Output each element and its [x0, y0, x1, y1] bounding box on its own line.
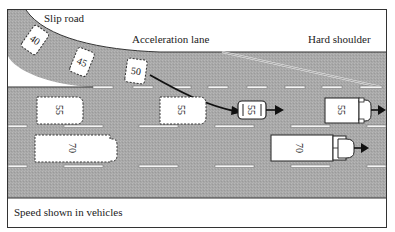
- caption: Speed shown in vehicles: [14, 206, 122, 218]
- label-slip-road: Slip road: [44, 12, 84, 24]
- label-acceleration-lane: Acceleration lane: [132, 33, 209, 45]
- vehicle-slip-car-3: 50: [124, 58, 147, 85]
- vehicle-lane1-car-mid: 55: [160, 97, 206, 124]
- svg-text:70: 70: [67, 143, 78, 153]
- svg-text:55: 55: [176, 105, 187, 115]
- svg-text:50: 50: [130, 65, 141, 77]
- label-hard-shoulder: Hard shoulder: [308, 33, 371, 45]
- svg-text:55: 55: [246, 105, 257, 115]
- svg-text:70: 70: [294, 143, 305, 153]
- vehicle-lane1-car-left: 55: [37, 97, 83, 124]
- vehicle-lane2-coach-left: 70: [35, 135, 117, 162]
- svg-text:55: 55: [336, 105, 347, 115]
- svg-text:55: 55: [54, 105, 65, 115]
